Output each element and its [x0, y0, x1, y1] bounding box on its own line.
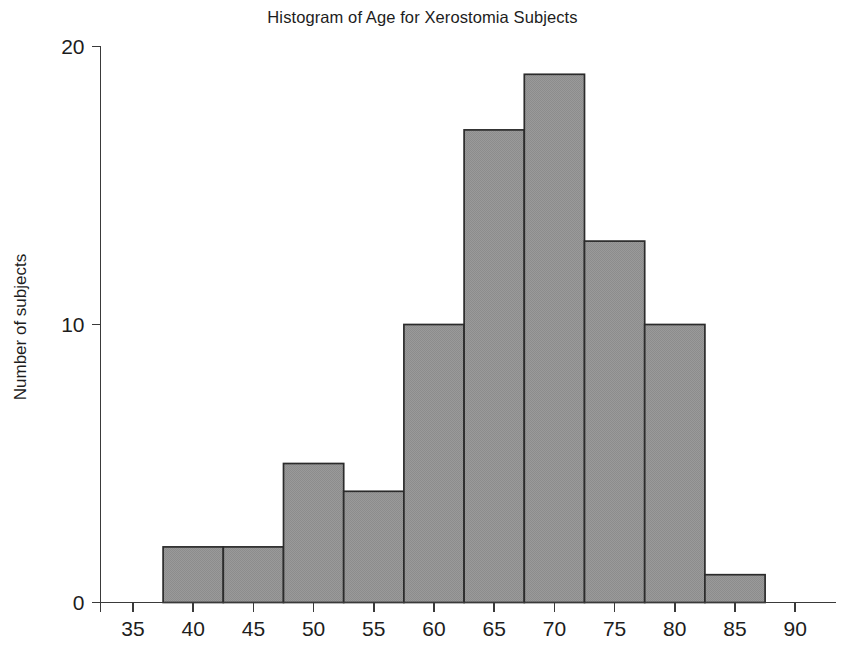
y-axis-ticks: 01020	[61, 35, 100, 614]
x-tick-label: 90	[784, 617, 807, 640]
histogram-bar	[705, 575, 765, 603]
histogram-bar	[404, 325, 464, 603]
histogram-bar	[163, 547, 223, 603]
x-tick-label: 80	[663, 617, 686, 640]
x-tick-label: 60	[422, 617, 445, 640]
histogram-figure: Histogram of Age for Xerostomia Subjects…	[0, 0, 845, 654]
histogram-bar	[344, 491, 404, 602]
histogram-bar	[524, 74, 584, 602]
plot-area: 354045505560657075808590 01020	[0, 0, 845, 654]
x-tick-label: 45	[242, 617, 265, 640]
y-tick-label: 20	[61, 35, 84, 58]
histogram-bar	[464, 130, 524, 603]
bars-group	[163, 74, 765, 602]
x-tick-label: 50	[302, 617, 325, 640]
histogram-bar	[645, 325, 705, 603]
y-tick-label: 0	[73, 591, 85, 614]
x-tick-label: 70	[543, 617, 566, 640]
histogram-bar	[284, 464, 344, 603]
y-tick-label: 10	[61, 313, 84, 336]
x-tick-label: 75	[603, 617, 626, 640]
x-tick-label: 85	[723, 617, 746, 640]
histogram-bar	[585, 241, 645, 602]
x-tick-label: 40	[182, 617, 205, 640]
x-axis-ticks: 354045505560657075808590	[101, 603, 807, 640]
x-tick-label: 35	[121, 617, 144, 640]
x-tick-label: 55	[362, 617, 385, 640]
x-tick-label: 65	[483, 617, 506, 640]
histogram-bar	[223, 547, 283, 603]
